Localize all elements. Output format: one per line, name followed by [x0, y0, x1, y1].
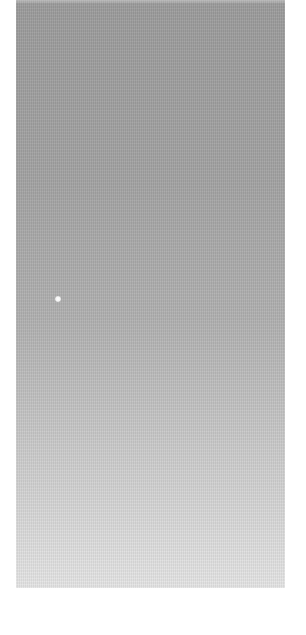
canvas [0, 0, 306, 635]
gray-gradient-panel [16, 0, 285, 588]
highlight-dot [55, 296, 61, 302]
panel-top-edge [16, 0, 285, 4]
